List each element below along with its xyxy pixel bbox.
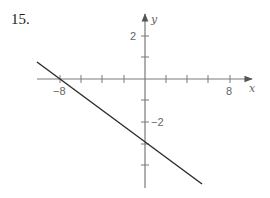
y-tick-label-2: 2 [130,30,136,42]
x-tick-label-neg8: −8 [53,85,66,97]
x-tick-label-8: 8 [226,85,232,97]
x-axis-label: x [249,82,256,95]
y-axis-label: y [150,13,158,26]
coordinate-plane: −8 8 2 −2 y x [0,0,270,198]
plotted-line [37,62,202,184]
y-tick-label-neg2: −2 [151,116,164,128]
